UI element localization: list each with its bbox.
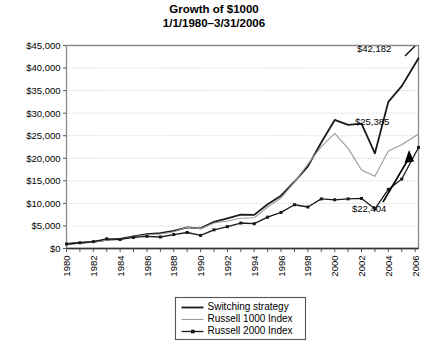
series-marker <box>266 216 269 219</box>
y-axis-tick-label: $30,000 <box>26 108 60 119</box>
series-marker <box>145 235 148 238</box>
y-axis-tick-label: $45,000 <box>26 40 60 51</box>
x-axis-tick-label: 1986 <box>142 256 153 277</box>
x-axis-tick-label: 1982 <box>88 256 99 277</box>
series-marker <box>280 211 283 214</box>
data-series <box>65 58 420 245</box>
series-marker <box>119 238 122 241</box>
series-marker <box>159 236 162 239</box>
y-axis-tick-label: $40,000 <box>26 62 60 73</box>
annotation-label: $25,385 <box>355 116 389 127</box>
series-line <box>67 147 419 244</box>
y-axis-tick-label: $10,000 <box>26 198 60 209</box>
y-axis-tick-label: $15,000 <box>26 175 60 186</box>
y-axis-tick-label: $20,000 <box>26 153 60 164</box>
plot-area: $0$5,000$10,000$15,000$20,000$25,000$30,… <box>0 0 428 349</box>
legend-swatch-marker <box>191 330 195 334</box>
series-line <box>67 58 419 244</box>
series-marker <box>213 228 216 231</box>
series-marker <box>132 236 135 239</box>
series-marker <box>400 178 403 181</box>
y-axis-ticks: $0$5,000$10,000$15,000$20,000$25,000$30,… <box>26 40 66 254</box>
series-marker <box>347 197 350 200</box>
series-marker <box>306 206 309 209</box>
y-axis-tick-label: $0 <box>50 243 61 254</box>
series-marker <box>105 237 108 240</box>
x-axis-tick-label: 2000 <box>329 256 340 277</box>
x-axis-tick-label: 2006 <box>410 256 421 277</box>
x-axis-tick-label: 1994 <box>249 256 260 277</box>
series-marker <box>172 233 175 236</box>
series-marker <box>293 203 296 206</box>
series-marker <box>65 242 68 245</box>
annotation-label: $22,404 <box>352 203 386 214</box>
x-axis-tick-label: 1980 <box>61 256 72 277</box>
annotation-arrow-shaft <box>383 158 409 202</box>
y-axis-tick-label: $5,000 <box>31 220 60 231</box>
series-marker <box>199 234 202 237</box>
annotation-leader-line <box>405 46 415 56</box>
series-marker <box>417 146 420 149</box>
x-axis-tick-label: 1992 <box>222 256 233 277</box>
series-marker <box>92 240 95 243</box>
legend-item-label[interactable]: Russell 2000 Index <box>208 325 293 336</box>
x-axis-tick-label: 2002 <box>356 256 367 277</box>
series-marker <box>186 231 189 234</box>
x-axis-tick-label: 1998 <box>302 256 313 277</box>
x-axis-tick-label: 1988 <box>168 256 179 277</box>
series-marker <box>320 197 323 200</box>
series-marker <box>360 197 363 200</box>
data-annotations: $42,182$25,385$22,404 <box>352 43 415 214</box>
x-axis-ticks: 1980198219841986198819901992199419961998… <box>61 249 421 277</box>
x-axis-tick-label: 1984 <box>115 256 126 277</box>
x-axis-tick-label: 2004 <box>383 256 394 277</box>
series-marker <box>253 222 256 225</box>
annotation-arrow-head <box>405 150 415 163</box>
legend-item-label[interactable]: Russell 1000 Index <box>208 313 293 324</box>
series-marker <box>239 222 242 225</box>
x-axis-tick-label: 1990 <box>195 256 206 277</box>
annotation-label: $42,182 <box>357 43 391 54</box>
series-marker <box>333 198 336 201</box>
growth-of-1000-line-chart: $0$5,000$10,000$15,000$20,000$25,000$30,… <box>0 0 428 349</box>
series-marker <box>78 241 81 244</box>
chart-container: Growth of $1000 1/1/1980–3/31/2006 $0$5,… <box>0 0 428 349</box>
legend-item-label[interactable]: Switching strategy <box>208 301 289 312</box>
x-axis-tick-label: 1996 <box>276 256 287 277</box>
y-axis-tick-label: $25,000 <box>26 130 60 141</box>
series-line <box>67 133 419 244</box>
chart-legend[interactable]: Switching strategyRussell 1000 IndexRuss… <box>176 298 306 340</box>
y-axis-tick-label: $35,000 <box>26 85 60 96</box>
series-marker <box>226 225 229 228</box>
